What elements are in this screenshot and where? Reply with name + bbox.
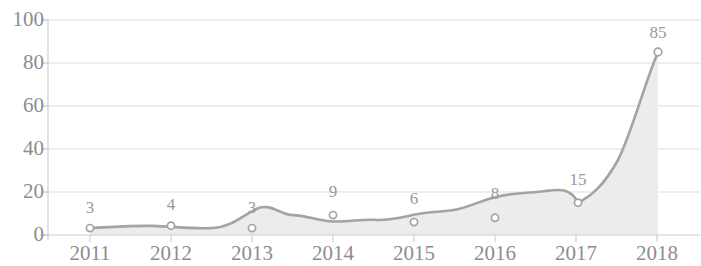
data-label-2014: 9	[313, 183, 353, 200]
chart-plot-area	[0, 0, 701, 266]
x-axis-label-2012: 2012	[131, 243, 211, 264]
data-point-2013	[248, 225, 255, 232]
data-label-2017: 15	[558, 171, 598, 188]
y-axis-label-20: 20	[0, 181, 44, 202]
x-axis-label-2011: 2011	[50, 243, 130, 264]
y-axis-label-0: 0	[0, 224, 44, 245]
data-point-2014	[329, 212, 336, 219]
data-label-2018: 85	[638, 24, 678, 41]
data-point-2011	[86, 225, 93, 232]
data-point-2012	[167, 222, 174, 229]
gridlines	[48, 20, 700, 192]
y-axis-label-100: 100	[0, 9, 44, 30]
x-axis-label-2015: 2015	[374, 243, 454, 264]
y-axis-label-60: 60	[0, 95, 44, 116]
y-axis-label-40: 40	[0, 138, 44, 159]
x-axis-label-2014: 2014	[293, 243, 373, 264]
data-label-2013: 3	[232, 199, 272, 216]
x-axis-label-2017: 2017	[536, 243, 616, 264]
data-label-2016: 8	[475, 185, 515, 202]
data-label-2015: 6	[394, 190, 434, 207]
line-area-chart: 100 80 60 40 20 0 2011 2012 2013 2014 20…	[0, 0, 701, 266]
data-point-2017	[574, 199, 581, 206]
data-label-2012: 4	[151, 196, 191, 213]
x-axis-label-2018: 2018	[617, 243, 697, 264]
data-point-2015	[410, 219, 417, 226]
x-axis-label-2016: 2016	[455, 243, 535, 264]
data-point-2018	[654, 48, 662, 56]
y-axis-label-80: 80	[0, 52, 44, 73]
x-axis-label-2013: 2013	[212, 243, 292, 264]
data-label-2011: 3	[70, 199, 110, 216]
data-point-2016	[491, 214, 498, 221]
